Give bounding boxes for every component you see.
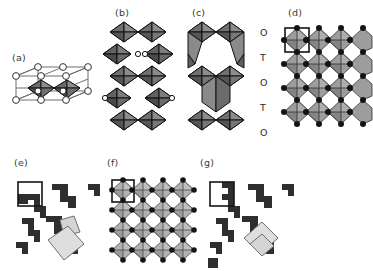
layer-label-o-3: O [260,128,267,138]
panel-e-zigzag [12,172,106,270]
octa-row-5 [110,110,166,130]
panel-a-svg [8,62,100,116]
layer-label-o-1: O [260,28,267,38]
panel-b-octahedral-chain [106,20,176,140]
panel-a-unit-cell [8,62,100,116]
octa-tetra-stack [188,22,244,130]
octa-row-3 [110,66,166,86]
lattice-nodes [13,64,92,104]
panel-e-svg [12,172,106,270]
panel-label-f: (f) [107,158,118,168]
panel-label-d: (d) [288,8,302,18]
panel-c-ot-stack [186,20,250,140]
panel-d-svg [282,26,372,132]
zigzag-ribbons-g [208,182,294,268]
octahedron-left [28,80,54,98]
panel-f-sheet-plan [110,178,198,270]
panel-label-g: (g) [200,158,214,168]
panel-label-c: (c) [192,8,205,18]
octahedra-chain [103,22,173,130]
layer-label-t-1: T [260,53,266,63]
panel-b-svg [106,20,176,140]
octa-row-1 [110,22,166,42]
highlight-squares-e [48,216,84,260]
panel-label-e: (e) [14,158,28,168]
panel-d-sheet-plan [282,26,372,132]
figure-canvas: (a) [0,0,373,271]
panel-g-svg [204,172,300,270]
octa-row-4 [103,88,173,108]
layer-t-upper [188,32,244,68]
unit-cell-edges [16,67,88,100]
layer-label-t-2: T [260,103,266,113]
panel-g-zigzag [204,172,300,270]
octahedron-right [54,80,80,98]
panel-c-svg [186,20,250,140]
panel-f-svg [110,178,198,270]
panel-label-b: (b) [115,8,129,18]
layer-o-bottom [188,110,244,130]
layer-label-o-2: O [260,78,267,88]
